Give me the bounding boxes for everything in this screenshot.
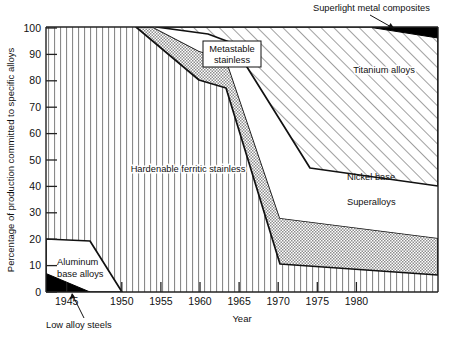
- x-tick-label-1980: 1980: [345, 295, 369, 307]
- y-tick-label-20: 20: [29, 233, 41, 245]
- x-tick-label-1970: 1970: [267, 295, 291, 307]
- chart-container: 0 10 20 30 40 50 60 70 80 90 100 1945 19…: [0, 0, 455, 337]
- series-label-titanium-alloys: Titanium alloys: [353, 65, 415, 75]
- y-tick-label-60: 60: [29, 127, 41, 139]
- y-tick-label-70: 70: [29, 101, 41, 113]
- y-tick-label-30: 30: [29, 206, 41, 218]
- series-label-hardenable-ferritic-stainless: Hardenable ferritic stainless: [131, 164, 246, 174]
- series-label-aluminum-base-alloys-line2: base alloys: [57, 269, 104, 279]
- y-tick-label-80: 80: [29, 74, 41, 86]
- x-tick-label-1975: 1975: [306, 295, 330, 307]
- y-tick-label-10: 10: [29, 259, 41, 271]
- y-tick-label-40: 40: [29, 180, 41, 192]
- alloy-production-area-chart: 0 10 20 30 40 50 60 70 80 90 100 1945 19…: [0, 0, 455, 337]
- series-label-nickel-base: Nickel base: [347, 172, 395, 182]
- y-tick-label-90: 90: [29, 48, 41, 60]
- x-tick-label-1950: 1950: [110, 295, 134, 307]
- y-tick-label-50: 50: [29, 154, 41, 166]
- series-label-superlight-metal-composites: Superlight metal composites: [313, 3, 430, 13]
- series-label-aluminum-base-alloys-line1: Aluminum: [57, 257, 99, 267]
- series-label-metastable-stainless-line1: Metastable: [209, 44, 254, 54]
- series-label-metastable-stainless-line2: stainless: [214, 55, 251, 65]
- x-tick-label-1955: 1955: [149, 295, 173, 307]
- x-tick-label-1965: 1965: [227, 295, 251, 307]
- series-label-superalloys: Superalloys: [347, 197, 396, 207]
- series-label-low-alloy-steels: Low alloy steels: [46, 320, 112, 330]
- x-tick-label-1960: 1960: [188, 295, 212, 307]
- y-tick-label-0: 0: [35, 286, 41, 298]
- y-axis-title: Percentage of production committed to sp…: [5, 48, 16, 273]
- y-tick-label-100: 100: [23, 22, 41, 34]
- x-axis-title: Year: [232, 313, 251, 324]
